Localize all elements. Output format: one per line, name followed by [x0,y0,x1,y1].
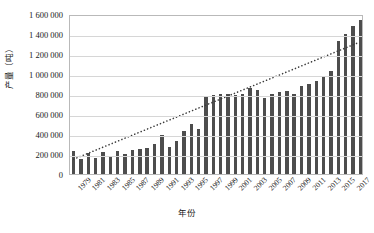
bar [182,131,185,174]
x-tick-label: 2001 [238,176,254,192]
x-tick-label: 1981 [91,176,107,192]
y-axis: 产量（吨） 0200 000400 000600 000800 0001 000… [0,0,66,233]
bar [351,26,354,174]
bar [131,150,134,174]
bar [337,41,340,174]
bar [256,90,259,174]
y-tick-label: 600 000 [35,111,63,120]
y-tick-label: 1 200 000 [29,51,63,60]
bars-layer [70,16,362,174]
bar [72,151,75,174]
bar [300,86,303,174]
y-tick-label: 800 000 [35,91,63,100]
bar [278,92,281,174]
bar [116,151,119,174]
bar [270,94,273,174]
bar [212,95,215,174]
gridline [70,36,362,37]
bar [234,95,237,174]
gridline [70,76,362,77]
bar [101,152,104,175]
x-tick-label: 1993 [179,176,195,192]
gridline [70,96,362,97]
x-tick-label: 2015 [341,176,357,192]
gridline [70,116,362,117]
bar [138,149,141,174]
y-tick-label: 1 400 000 [29,31,63,40]
x-tick-label: 1983 [106,176,122,192]
x-tick-label: 2013 [326,176,342,192]
bar [315,81,318,174]
y-tick-label: 200 000 [35,151,63,160]
x-tick-label: 2017 [355,176,371,192]
production-bar-chart: 产量（吨） 0200 000400 000600 000800 0001 000… [0,0,374,233]
x-tick-label: 1997 [208,176,224,192]
bar [175,141,178,174]
bar [285,91,288,174]
bar [160,135,163,174]
gridline [70,56,362,57]
bar [322,77,325,174]
x-tick-label: 2003 [253,176,269,192]
bar [168,147,171,174]
bar [219,94,222,174]
x-axis-title: 年份 [0,209,374,218]
bar [79,159,82,174]
x-tick-label: 1995 [194,176,210,192]
y-tick-label: 0 [59,171,63,180]
y-tick-label: 400 000 [35,131,63,140]
y-axis-title: 产量（吨） [5,36,14,96]
bar [329,71,332,174]
bar [241,94,244,174]
x-tick-label: 2007 [282,176,298,192]
bar [123,154,126,174]
x-tick-label: 1991 [164,176,180,192]
x-tick-label: 2009 [297,176,313,192]
bar [145,148,148,175]
y-tick-label: 1 600 000 [29,11,63,20]
bar [190,124,193,174]
bar [248,88,251,174]
bar [307,84,310,174]
bar [359,20,362,174]
y-tick-label: 1 000 000 [29,71,63,80]
gridline [70,136,362,137]
bar [153,144,156,174]
x-tick-label: 1989 [150,176,166,192]
x-tick-label: 1987 [135,176,151,192]
x-tick-label: 2011 [311,176,327,192]
plot-area [69,15,363,175]
bar [226,94,229,174]
bar [292,94,295,174]
bar [94,158,97,174]
bar [344,34,347,174]
bar [109,156,112,174]
gridline [70,156,362,157]
